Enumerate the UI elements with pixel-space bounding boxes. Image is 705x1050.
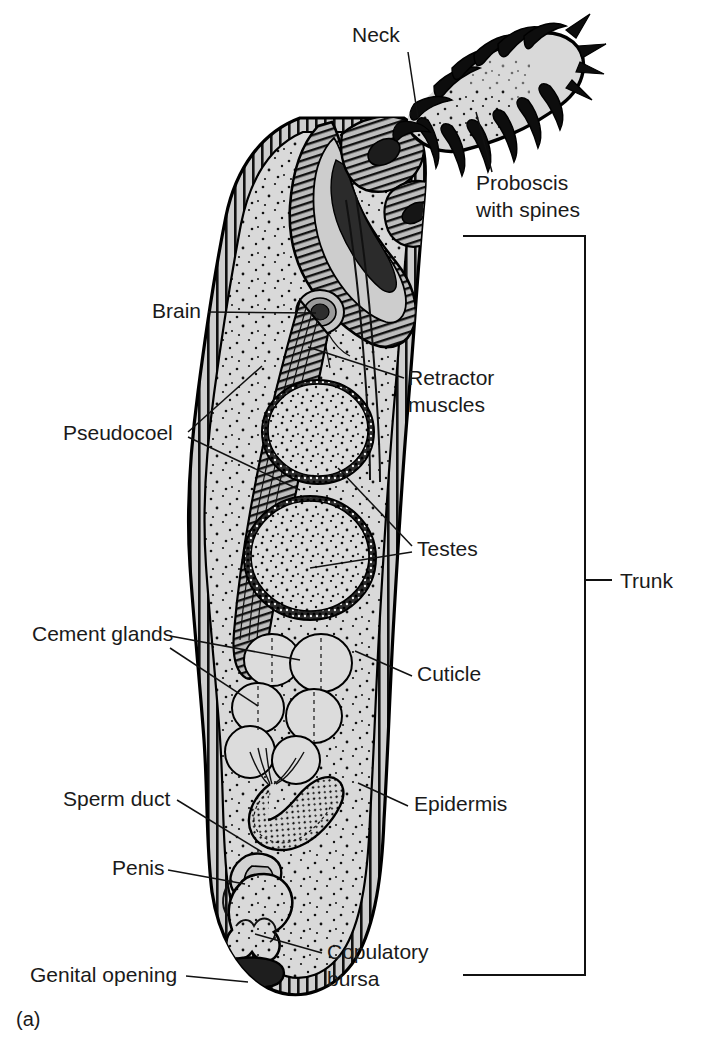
- label-proboscis: Proboscis: [476, 171, 568, 194]
- label-proboscis-line2: with spines: [475, 198, 580, 221]
- label-copulatory-bursa-line2: bursa: [327, 967, 380, 990]
- label-sperm-duct: Sperm duct: [63, 787, 171, 810]
- label-brain: Brain: [152, 299, 201, 322]
- label-epidermis: Epidermis: [414, 792, 507, 815]
- trunk-bracket: [463, 236, 612, 975]
- label-copulatory-bursa: Copulatory: [327, 940, 429, 963]
- genital-opening: [222, 958, 284, 989]
- anatomical-figure: Neck Proboscis with spines Brain Retract…: [0, 0, 705, 1050]
- label-penis: Penis: [112, 856, 165, 879]
- label-pseudocoel: Pseudocoel: [63, 421, 173, 444]
- label-retractor-muscles: Retractor: [408, 366, 494, 389]
- label-neck: Neck: [352, 23, 400, 46]
- testis-anterior: [262, 380, 374, 484]
- label-retractor-muscles-line2: muscles: [408, 393, 485, 416]
- label-cuticle: Cuticle: [417, 662, 481, 685]
- label-genital-opening: Genital opening: [30, 963, 177, 986]
- label-trunk: Trunk: [620, 569, 673, 592]
- trunk-body: [188, 116, 447, 994]
- genital-leader: [186, 976, 248, 982]
- label-testes: Testes: [417, 537, 478, 560]
- label-cement-glands: Cement glands: [32, 622, 173, 645]
- receptacle-ring-lower: [384, 181, 447, 247]
- brain-leader: [208, 312, 316, 313]
- figure-caption: (a): [16, 1008, 40, 1030]
- testis-posterior: [244, 496, 376, 620]
